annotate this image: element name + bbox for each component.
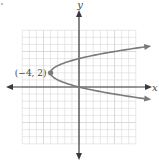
vertex-point: [48, 70, 53, 75]
arrow-upper-icon: [144, 44, 151, 50]
x-axis-label: x: [152, 82, 158, 93]
vertex-label: (−4, 2): [15, 68, 47, 78]
arrow-lower-icon: [144, 96, 151, 102]
parabola-graph: (−4, 2) x y: [0, 0, 159, 162]
y-axis-label: y: [76, 0, 83, 10]
axes: [6, 10, 152, 160]
